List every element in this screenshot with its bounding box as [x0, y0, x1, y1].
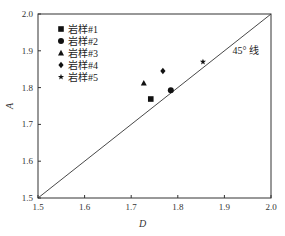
y-tick-label: 1.5: [22, 193, 34, 203]
y-tick-label: 2.0: [22, 9, 34, 19]
legend-label: 岩样#3: [68, 47, 98, 59]
y-tick-label: 1.8: [22, 83, 34, 93]
x-tick-label: 1.5: [32, 202, 44, 212]
y-tick-label: 1.9: [22, 46, 34, 56]
y-axis-label: A: [4, 102, 15, 110]
data-point-triangle-icon: [141, 80, 147, 86]
x-tick-label: 1.9: [219, 202, 231, 212]
scatter-chart: 1.51.61.71.81.92.01.51.61.71.81.92.0DA岩样…: [0, 0, 285, 236]
x-tick-label: 1.6: [79, 202, 91, 212]
data-point-diamond-icon: [160, 68, 165, 74]
legend-triangle-icon: [58, 50, 64, 56]
x-axis-label: D: [138, 218, 147, 229]
x-tick-label: 1.8: [172, 202, 184, 212]
annotation-45-line: 45° 线: [232, 44, 259, 56]
y-tick-label: 1.7: [22, 119, 34, 129]
legend-circle-icon: [58, 38, 64, 44]
data-point-circle-icon: [168, 87, 174, 93]
legend-label: 岩样#2: [68, 35, 98, 47]
legend-label: 岩样#4: [68, 59, 98, 71]
x-tick-label: 2.0: [265, 202, 277, 212]
legend-label: 岩样#5: [68, 71, 98, 83]
legend-star-icon: [58, 74, 64, 80]
x-tick-label: 1.7: [126, 202, 138, 212]
data-point-star-icon: [200, 59, 206, 65]
y-tick-label: 1.6: [22, 156, 34, 166]
legend-diamond-icon: [58, 62, 63, 68]
data-point-square-icon: [148, 96, 154, 102]
legend-square-icon: [58, 26, 64, 32]
legend-label: 岩样#1: [68, 23, 98, 35]
